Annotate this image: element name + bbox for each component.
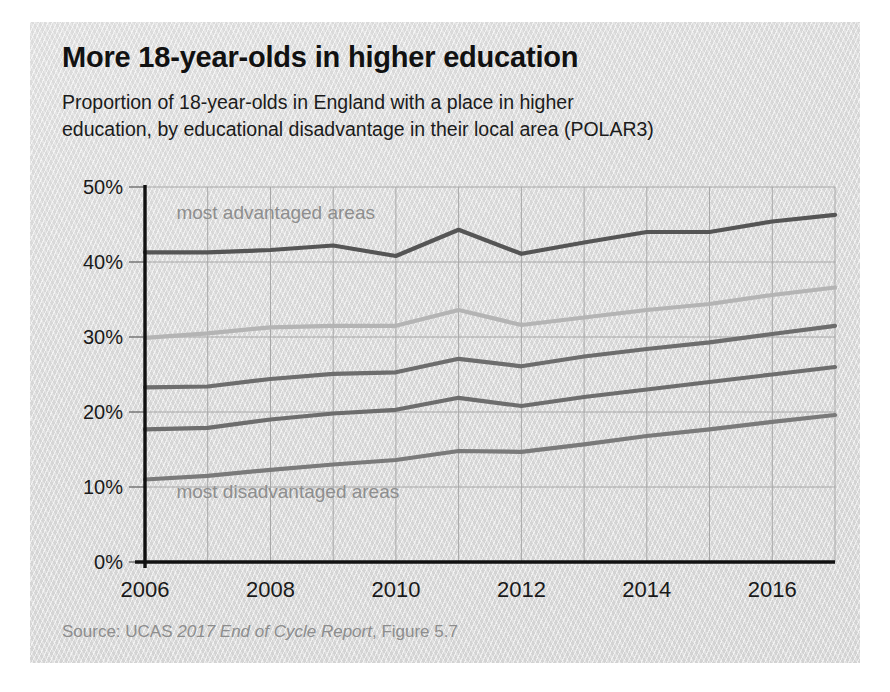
x-axis-tick-label: 2006	[121, 577, 170, 602]
x-axis-ticks: 200620082010201220142016	[121, 577, 797, 602]
x-axis-tick-label: 2016	[748, 577, 797, 602]
x-axis-tick-label: 2008	[246, 577, 295, 602]
y-axis-ticks: 0%10%20%30%40%50%	[83, 176, 145, 573]
y-axis-tick-label: 40%	[83, 251, 123, 273]
y-axis-tick-label: 50%	[83, 176, 123, 198]
chart-annotations: most advantaged areasmost disadvantaged …	[176, 202, 399, 502]
source-note: Source: UCAS 2017 End of Cycle Report, F…	[62, 622, 458, 642]
x-axis-tick-label: 2014	[622, 577, 671, 602]
series-line	[145, 367, 835, 429]
y-axis-tick-label: 30%	[83, 326, 123, 348]
figure-card: More 18-year-olds in higher education Pr…	[30, 22, 860, 663]
source-report-title: 2017 End of Cycle Report	[177, 622, 372, 641]
line-chart-svg: 0%10%20%30%40%50% 2006200820102012201420…	[30, 22, 860, 663]
page-top-clipped-region: · · ·	[0, 0, 890, 18]
series-annotation-label: most disadvantaged areas	[176, 481, 399, 502]
source-suffix: , Figure 5.7	[372, 622, 458, 641]
clipped-header-text: · · ·	[430, 0, 451, 4]
x-axis-tick-label: 2012	[497, 577, 546, 602]
y-axis-tick-label: 0%	[94, 551, 123, 573]
y-axis-tick-label: 10%	[83, 476, 123, 498]
series-annotation-label: most advantaged areas	[176, 202, 375, 223]
x-axis-tick-label: 2010	[371, 577, 420, 602]
chart-axes	[135, 185, 835, 568]
y-axis-tick-label: 20%	[83, 401, 123, 423]
series-line	[145, 288, 835, 338]
series-line	[145, 415, 835, 480]
source-prefix: Source: UCAS	[62, 622, 177, 641]
chart-plot-area: 0%10%20%30%40%50% 2006200820102012201420…	[30, 22, 860, 663]
data-series	[145, 215, 835, 480]
